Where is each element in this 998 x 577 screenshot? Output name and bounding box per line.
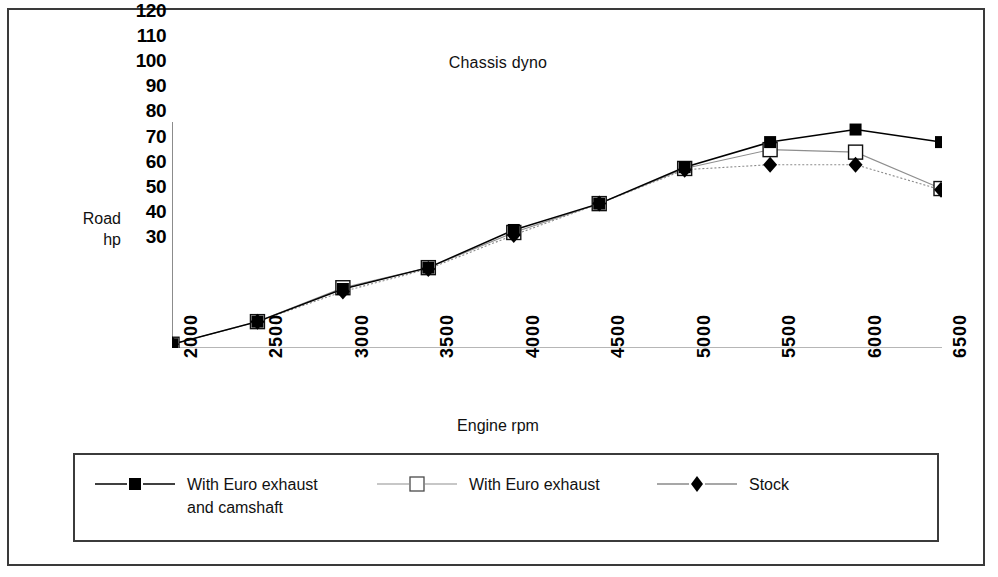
marker-filled-diamond [763, 157, 777, 173]
marker-filled-square [935, 136, 942, 148]
x-tick-label-3000: 3000 [352, 336, 373, 358]
legend-item-0[interactable]: With Euro exhaust and camshaft [93, 473, 318, 519]
y-tick-label-40: 40 [120, 202, 166, 221]
x-tick-label-2500: 2500 [266, 336, 287, 358]
x-axis-tick-labels: 2000250030003500400045005000550060006500 [9, 356, 987, 426]
legend-marker-filled-diamond [691, 476, 703, 492]
chart-frame: Chassis dyno Road hp 1201101009080706050… [7, 8, 985, 566]
y-tick-label-30: 30 [120, 227, 166, 246]
legend-marker-filled-square-icon [93, 475, 177, 497]
series-markers-0 [172, 124, 942, 348]
y-tick-label-100: 100 [120, 51, 166, 70]
legend-marker-open-square [410, 477, 424, 491]
y-axis-title-line-2: hp [59, 229, 121, 250]
legend-marker-filled-square [129, 478, 141, 490]
y-axis-title-line-1: Road [59, 208, 121, 229]
x-tick-label-4500: 4500 [608, 336, 629, 358]
y-tick-label-60: 60 [120, 152, 166, 171]
legend-label-0: With Euro exhaust and camshaft [187, 473, 318, 519]
chart-svg [172, 122, 942, 348]
legend-label-2: Stock [749, 473, 789, 496]
x-tick-label-3500: 3500 [437, 336, 458, 358]
legend-label-1: With Euro exhaust [469, 473, 600, 496]
legend-marker-open-square-icon [375, 475, 459, 497]
y-tick-label-80: 80 [120, 101, 166, 120]
marker-filled-square [764, 136, 776, 148]
series-2 [172, 165, 941, 345]
y-tick-label-110: 110 [120, 26, 166, 45]
series-markers-2 [172, 157, 942, 348]
series-line-1 [172, 150, 941, 345]
series-markers-1 [172, 143, 942, 348]
y-tick-label-70: 70 [120, 127, 166, 146]
x-axis-title: Engine rpm [9, 417, 987, 435]
x-tick-label-6000: 6000 [865, 336, 886, 358]
series-line-2 [172, 165, 941, 345]
y-tick-label-50: 50 [120, 177, 166, 196]
x-tick-label-5500: 5500 [779, 336, 800, 358]
chart-axes [172, 122, 942, 348]
series-1 [172, 150, 941, 345]
x-tick-label-5000: 5000 [694, 336, 715, 358]
x-tick-label-2000: 2000 [181, 336, 202, 358]
legend-marker-filled-diamond-icon [655, 475, 739, 497]
chart-legend: With Euro exhaust and camshaft With Euro… [73, 453, 939, 542]
x-tick-label-4000: 4000 [523, 336, 544, 358]
legend-item-1[interactable]: With Euro exhaust [375, 473, 600, 497]
y-axis-title: Road hp [59, 208, 121, 250]
series-line-0 [172, 130, 941, 345]
y-axis-tick-labels: 12011010090807060504030 [114, 10, 166, 310]
marker-filled-square [850, 124, 862, 136]
series-0 [172, 130, 941, 345]
y-tick-label-120: 120 [120, 1, 166, 20]
screenshot-page: Chassis dyno Road hp 1201101009080706050… [0, 0, 998, 577]
plot-area [172, 122, 942, 348]
legend-item-2[interactable]: Stock [655, 473, 789, 497]
x-tick-label-6500: 6500 [950, 336, 971, 358]
y-tick-label-90: 90 [120, 76, 166, 95]
